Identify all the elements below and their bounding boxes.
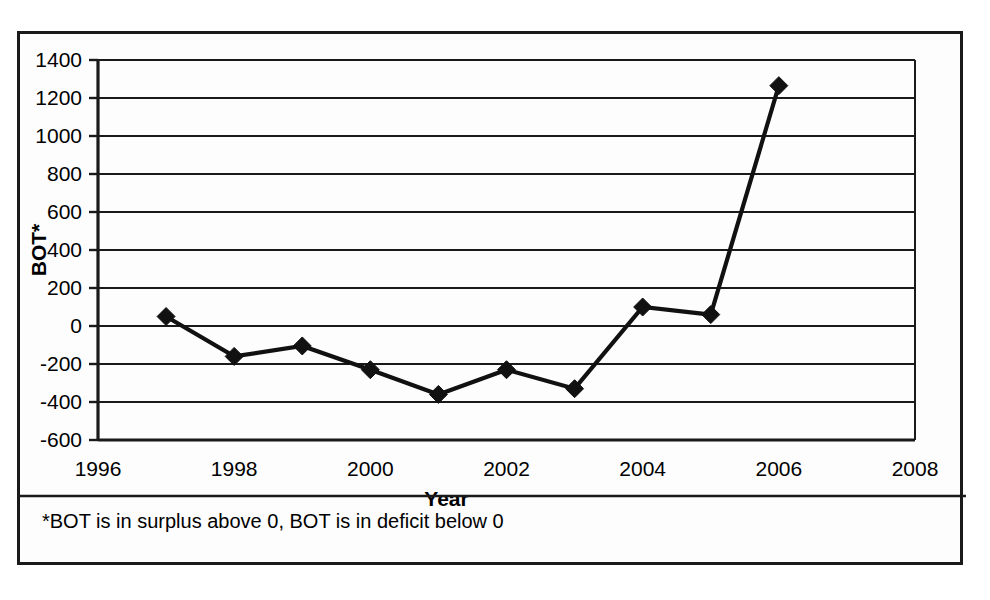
x-tick-label-1996: 1996 — [75, 457, 122, 480]
footnote-text: *BOT is in surplus above 0, BOT is in de… — [42, 510, 504, 532]
chart-figure-frame: -600-400-2000200400600800100012001400 19… — [17, 31, 963, 565]
data-point-1997 — [157, 308, 175, 326]
x-axis-tick-labels: 1996199820002002200420062008 — [75, 457, 939, 480]
bot-line-chart: -600-400-2000200400600800100012001400 19… — [20, 34, 966, 568]
x-tick-label-2008: 2008 — [892, 457, 939, 480]
x-tick-label-1998: 1998 — [211, 457, 258, 480]
x-tick-label-2004: 2004 — [619, 457, 666, 480]
y-tick-label-1000: 1000 — [35, 124, 82, 147]
data-point-2006 — [770, 77, 788, 95]
y-tick-label-0: 0 — [70, 314, 82, 337]
x-tick-label-2002: 2002 — [483, 457, 530, 480]
x-axis-title: Year — [424, 487, 468, 510]
data-point-2005 — [702, 306, 720, 324]
y-tick-label-1400: 1400 — [35, 48, 82, 71]
data-point-1999 — [293, 337, 311, 355]
bot-series-line — [166, 86, 779, 395]
y-tick-label--400: -400 — [40, 390, 82, 413]
y-tick-label-1200: 1200 — [35, 86, 82, 109]
x-tick-label-2006: 2006 — [755, 457, 802, 480]
y-tick-label--600: -600 — [40, 428, 82, 451]
y-tick-label-800: 800 — [47, 162, 82, 185]
x-tick-label-2000: 2000 — [347, 457, 394, 480]
data-point-1998 — [225, 347, 243, 365]
y-tick-label-200: 200 — [47, 276, 82, 299]
data-point-2001 — [429, 385, 447, 403]
y-tick-label-600: 600 — [47, 200, 82, 223]
y-tick-label--200: -200 — [40, 352, 82, 375]
y-axis-title: BOT* — [27, 223, 50, 276]
y-tick-label-400: 400 — [47, 238, 82, 261]
